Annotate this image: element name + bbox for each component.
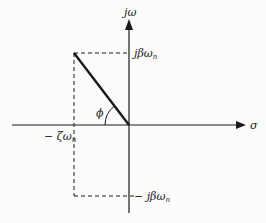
real-axis-label: σ: [250, 119, 258, 132]
imaginary-axis-arrow-icon: [125, 19, 133, 30]
angle-arc: [105, 106, 115, 125]
angle-label: ϕ: [96, 107, 104, 120]
imag-pos-label: jβωn: [131, 47, 158, 61]
real-axis-arrow-icon: [236, 121, 246, 129]
imag-neg-label: − jβωn: [134, 190, 170, 204]
real-neg-label: − ζωn: [44, 130, 77, 144]
s-plane-diagram: jω σ jβωn − jβωn − ζωn ϕ: [0, 0, 266, 223]
imaginary-axis-label: jω: [121, 6, 136, 19]
